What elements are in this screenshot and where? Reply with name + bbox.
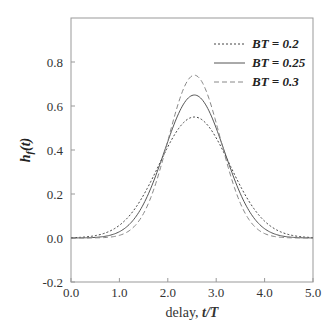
y-tick-label: 0.0 <box>47 231 63 246</box>
x-tick-label: 4.0 <box>256 285 272 300</box>
legend-entry: BT = 0.2 <box>251 36 299 51</box>
legend: BT = 0.2BT = 0.25BT = 0.3 <box>214 36 306 89</box>
x-tick-label: 5.0 <box>305 285 321 300</box>
x-tick-label: 2.0 <box>160 285 176 300</box>
series-line-0 <box>71 117 313 238</box>
curves <box>71 75 313 238</box>
y-tick-label: 0.4 <box>47 143 64 158</box>
series-line-1 <box>71 95 313 238</box>
x-tick-label: 1.0 <box>111 285 127 300</box>
legend-entry: BT = 0.25 <box>251 55 306 70</box>
y-tick-label: -0.2 <box>42 275 63 290</box>
series-line-2 <box>71 75 313 238</box>
y-axis-label: hf(t) <box>18 138 35 162</box>
legend-entry: BT = 0.3 <box>251 74 299 89</box>
chart: 0.01.02.03.04.05.0-0.20.00.20.40.60.8 BT… <box>0 0 335 334</box>
x-tick-label: 0.0 <box>63 285 79 300</box>
y-tick-label: 0.6 <box>47 99 64 114</box>
y-tick-label: 0.2 <box>47 187 63 202</box>
y-tick-label: 0.8 <box>47 55 63 70</box>
x-axis-label: delay, t/T <box>166 305 220 320</box>
x-tick-label: 3.0 <box>208 285 224 300</box>
axis-ticks: 0.01.02.03.04.05.0-0.20.00.20.40.60.8 <box>42 55 321 300</box>
